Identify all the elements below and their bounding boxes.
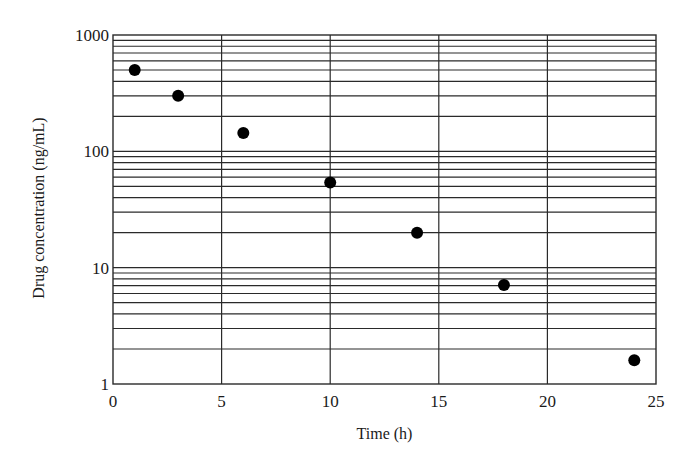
y-tick-label: 1000 [75, 26, 109, 45]
data-point [129, 64, 141, 76]
y-tick-label: 100 [84, 142, 110, 161]
x-tick-label: 0 [109, 392, 118, 411]
data-points [129, 64, 641, 366]
y-tick-label: 10 [92, 259, 109, 278]
data-point [172, 90, 184, 102]
chart: 0510152025 1101001000 Time (h) Drug conc… [0, 0, 686, 466]
horizontal-gridlines [113, 40, 656, 349]
data-point [628, 354, 640, 366]
y-axis-label: Drug concentration (ng/mL) [30, 117, 48, 298]
data-point [324, 176, 336, 188]
x-axis-label: Time (h) [357, 425, 413, 443]
x-tick-label: 15 [430, 392, 447, 411]
data-point [237, 127, 249, 139]
data-point [498, 279, 510, 291]
x-tick-label: 20 [539, 392, 556, 411]
x-tick-label: 25 [648, 392, 665, 411]
y-tick-label: 1 [101, 375, 110, 394]
y-axis-tick-labels: 1101001000 [75, 26, 109, 394]
vertical-gridlines [222, 35, 548, 384]
data-point [411, 227, 423, 239]
x-tick-label: 10 [322, 392, 339, 411]
x-axis-tick-labels: 0510152025 [109, 392, 665, 411]
plot-frame [113, 35, 656, 384]
x-tick-label: 5 [217, 392, 226, 411]
